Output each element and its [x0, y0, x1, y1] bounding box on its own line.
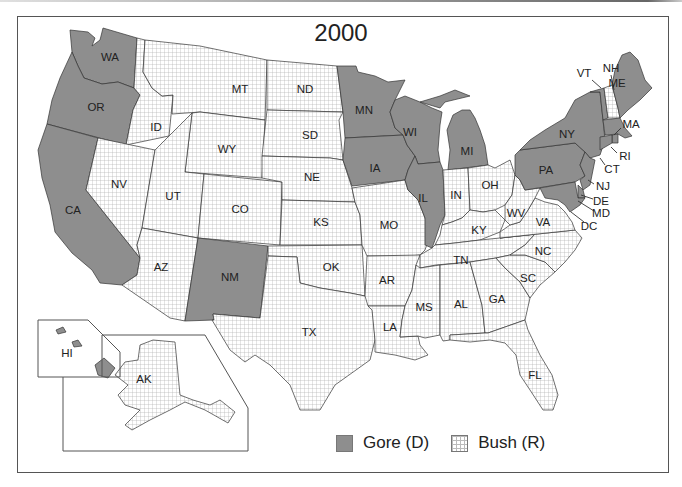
state-label-ks: KS — [313, 216, 329, 228]
state-label-ri: RI — [619, 150, 631, 162]
state-label-ny: NY — [559, 128, 575, 140]
state-label-ct: CT — [604, 163, 619, 175]
state-label-mt: MT — [232, 83, 249, 95]
callout-line-ri — [611, 147, 617, 153]
state-label-pa: PA — [539, 164, 554, 176]
state-label-ok: OK — [323, 261, 340, 273]
state-label-wy: WY — [218, 143, 237, 155]
legend: Gore (D) Bush (R) — [336, 433, 567, 453]
state-label-tx: TX — [302, 326, 317, 338]
state-label-ky: KY — [471, 224, 487, 236]
state-label-co: CO — [231, 203, 248, 215]
state-label-oh: OH — [481, 179, 498, 191]
state-label-mo: MO — [380, 219, 399, 231]
state-label-de: DE — [593, 195, 609, 207]
state-label-az: AZ — [154, 261, 169, 273]
state-label-in: IN — [450, 189, 462, 201]
state-label-ca: CA — [65, 204, 81, 216]
state-ri[interactable] — [612, 134, 618, 143]
state-label-al: AL — [454, 298, 469, 310]
state-label-ar: AR — [379, 274, 395, 286]
state-ia[interactable] — [343, 135, 415, 186]
state-label-nd: ND — [297, 83, 314, 95]
legend-item-gore: Gore (D) — [336, 433, 429, 453]
state-label-tn: TN — [453, 254, 468, 266]
state-label-il: IL — [418, 192, 428, 204]
us-election-map: WAORCAIDNVMTWYUTCOAZNMNDSDNEKSOKTXMNIAMO… — [0, 0, 682, 487]
state-label-nv: NV — [111, 178, 127, 190]
state-ct[interactable] — [600, 135, 612, 150]
state-label-me: ME — [608, 77, 626, 89]
state-label-mi: MI — [461, 145, 474, 157]
callout-line-vt — [592, 80, 601, 88]
state-label-ms: MS — [415, 301, 433, 313]
state-label-nc: NC — [535, 245, 552, 257]
state-label-ma: MA — [622, 118, 640, 130]
state-label-fl: FL — [528, 369, 542, 381]
legend-label-bush: Bush (R) — [478, 433, 545, 453]
legend-label-gore: Gore (D) — [363, 433, 429, 453]
state-label-wa: WA — [101, 51, 119, 63]
state-label-wv: WV — [507, 207, 526, 219]
state-label-md: MD — [592, 207, 610, 219]
state-label-ut: UT — [165, 190, 180, 202]
legend-item-bush: Bush (R) — [451, 433, 545, 453]
state-label-vt: VT — [577, 67, 592, 79]
state-label-ga: GA — [489, 293, 506, 305]
bush-swatch — [451, 435, 468, 452]
gore-swatch — [336, 435, 353, 452]
state-label-ia: IA — [370, 162, 381, 174]
state-label-nj: NJ — [596, 180, 610, 192]
state-label-sc: SC — [520, 272, 536, 284]
state-ak[interactable] — [115, 340, 235, 430]
state-label-or: OR — [87, 101, 104, 113]
state-label-va: VA — [536, 216, 551, 228]
state-label-mn: MN — [355, 104, 373, 116]
state-label-ak: AK — [136, 373, 152, 385]
state-label-dc: DC — [581, 220, 598, 232]
state-label-nh: NH — [603, 62, 620, 74]
state-label-id: ID — [150, 121, 162, 133]
state-label-nm: NM — [221, 271, 239, 283]
state-label-ne: NE — [304, 171, 320, 183]
state-label-sd: SD — [302, 129, 318, 141]
state-label-hi: HI — [61, 347, 73, 359]
state-label-la: LA — [383, 321, 397, 333]
state-label-wi: WI — [403, 126, 417, 138]
